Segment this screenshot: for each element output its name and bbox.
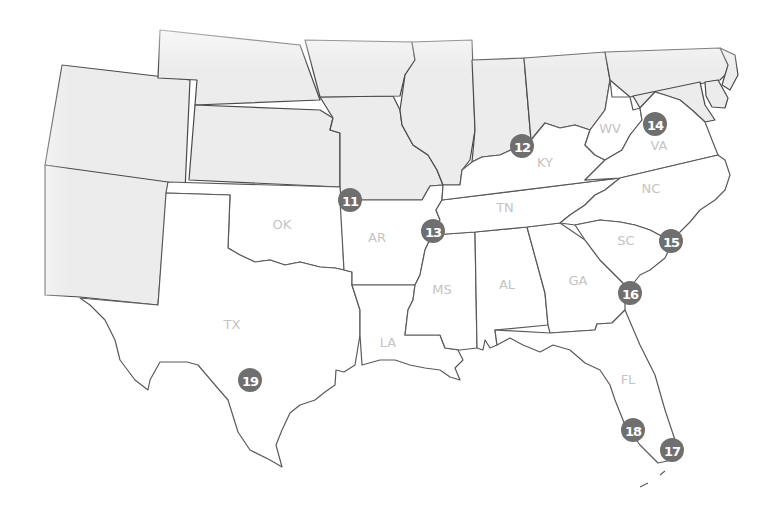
marker-12[interactable]: 12 (510, 134, 534, 158)
marker-13[interactable]: 13 (421, 219, 445, 243)
label-nc: NC (642, 181, 661, 196)
label-tn: TN (495, 200, 514, 215)
marker-number: 17 (664, 444, 681, 459)
marker-number: 18 (625, 424, 642, 439)
label-fl: FL (621, 372, 636, 387)
state-kansas (189, 105, 340, 187)
marker-number: 15 (663, 235, 680, 250)
label-ms: MS (432, 282, 451, 297)
marker-number: 14 (647, 118, 664, 133)
label-ga: GA (569, 273, 588, 288)
southern-us-map: OK AR TX LA MS AL GA TN KY WV VA NC SC F… (0, 0, 774, 506)
label-ky: KY (537, 155, 553, 170)
marker-16[interactable]: 16 (618, 281, 642, 305)
label-la: LA (380, 335, 397, 350)
label-wv: WV (599, 121, 621, 136)
state-florida (495, 310, 675, 463)
marker-number: 11 (342, 194, 359, 209)
top-fade (0, 0, 774, 70)
label-sc: SC (617, 233, 634, 248)
florida-keys (640, 471, 665, 487)
left-fade (0, 0, 70, 506)
label-tx: TX (223, 317, 241, 332)
marker-number: 19 (242, 374, 259, 389)
marker-number: 12 (514, 140, 530, 155)
label-al: AL (499, 277, 516, 292)
label-ar: AR (368, 230, 386, 245)
marker-19[interactable]: 19 (238, 368, 262, 392)
marker-number: 16 (622, 287, 639, 302)
marker-14[interactable]: 14 (643, 112, 667, 136)
marker-number: 13 (425, 225, 442, 240)
label-ok: OK (273, 217, 292, 232)
marker-15[interactable]: 15 (659, 229, 683, 253)
marker-11[interactable]: 11 (338, 188, 362, 212)
marker-18[interactable]: 18 (621, 418, 645, 442)
label-va: VA (651, 138, 668, 153)
marker-17[interactable]: 17 (660, 438, 684, 462)
